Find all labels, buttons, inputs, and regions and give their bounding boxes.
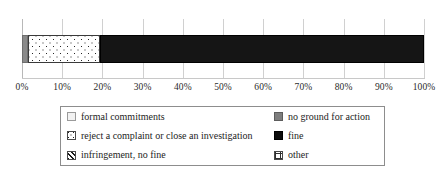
legend-label-infringement-no-fine: infringement, no fine — [81, 150, 166, 160]
x-tick-label-0pct: 0% — [16, 82, 29, 92]
legend: formal commitments reject a complaint or… — [60, 106, 385, 166]
legend-column-right: no ground for action fine other — [273, 107, 383, 165]
legend-label-other: other — [288, 150, 309, 160]
bar-segment-fine — [100, 35, 424, 63]
legend-label-formal-commitments: formal commitments — [81, 112, 165, 122]
legend-swatch-reject-a-complaint-icon — [67, 131, 76, 140]
bar-track — [22, 35, 424, 63]
x-tick-label-100pct: 100% — [413, 82, 436, 92]
x-tick-label-90pct: 90% — [375, 82, 393, 92]
x-tick-label-60pct: 60% — [254, 82, 272, 92]
legend-item-fine[interactable]: fine — [273, 126, 383, 145]
legend-item-infringement-no-fine[interactable]: infringement, no fine — [66, 146, 271, 165]
legend-item-formal-commitments[interactable]: formal commitments — [66, 107, 271, 126]
legend-label-no-ground-for-action: no ground for action — [288, 112, 370, 122]
x-tick-label-30pct: 30% — [134, 82, 152, 92]
x-tick-label-70pct: 70% — [295, 82, 313, 92]
stacked-bar-chart: 0%10%20%30%40%50%60%70%80%90%100% formal… — [0, 0, 444, 173]
legend-swatch-fine-icon — [274, 131, 283, 140]
x-tick-label-40pct: 40% — [174, 82, 192, 92]
legend-label-reject-a-complaint: reject a complaint or close an investiga… — [81, 131, 253, 141]
legend-swatch-no-ground-for-action-icon — [274, 112, 283, 121]
legend-item-reject-a-complaint[interactable]: reject a complaint or close an investiga… — [66, 126, 271, 145]
legend-item-other[interactable]: other — [273, 146, 383, 165]
x-tick-label-50pct: 50% — [214, 82, 232, 92]
legend-swatch-other-icon — [274, 151, 283, 160]
gridline-100pct — [424, 19, 425, 79]
legend-label-fine: fine — [288, 131, 304, 141]
x-tick-label-20pct: 20% — [94, 82, 112, 92]
legend-item-no-ground-for-action[interactable]: no ground for action — [273, 107, 383, 126]
bar-segment-reject-a-complaint — [28, 35, 100, 63]
legend-swatch-formal-commitments-icon — [67, 112, 76, 121]
legend-column-left: formal commitments reject a complaint or… — [66, 107, 271, 165]
x-axis-line — [22, 78, 425, 79]
x-tick-label-80pct: 80% — [335, 82, 353, 92]
legend-swatch-infringement-no-fine-icon — [67, 151, 76, 160]
x-tick-label-10pct: 10% — [53, 82, 71, 92]
